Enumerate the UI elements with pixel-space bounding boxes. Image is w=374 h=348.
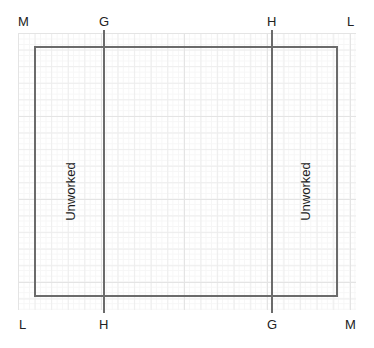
label-bottom-division-right: G	[267, 318, 277, 331]
diagram-canvas: M G H L L H G M Unworked Unworked	[0, 0, 374, 348]
label-top-right-vertex: L	[347, 15, 354, 28]
label-left-strip-unworked: Unworked	[64, 159, 77, 225]
main-rectangle	[34, 46, 338, 297]
vertical-division-right	[271, 30, 273, 313]
label-top-left-vertex: M	[18, 15, 29, 28]
label-bottom-right-vertex: M	[345, 318, 356, 331]
vertical-division-left	[103, 30, 105, 313]
label-right-strip-unworked: Unworked	[299, 159, 312, 225]
label-bottom-division-left: H	[99, 318, 108, 331]
label-top-division-right: H	[267, 15, 276, 28]
label-top-division-left: G	[99, 15, 109, 28]
label-bottom-left-vertex: L	[19, 318, 26, 331]
